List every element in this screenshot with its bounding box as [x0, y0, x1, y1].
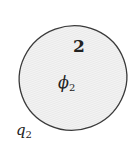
region-number-label: 2 [73, 36, 85, 56]
potential-subscript: 2 [69, 82, 75, 93]
charge-subscript: 2 [26, 129, 32, 140]
potential-symbol: ϕ [58, 73, 69, 92]
conductor-diagram: 2 ϕ2 q2 [0, 0, 139, 160]
charge-label: q2 [16, 121, 32, 140]
charge-symbol: q [16, 121, 26, 139]
